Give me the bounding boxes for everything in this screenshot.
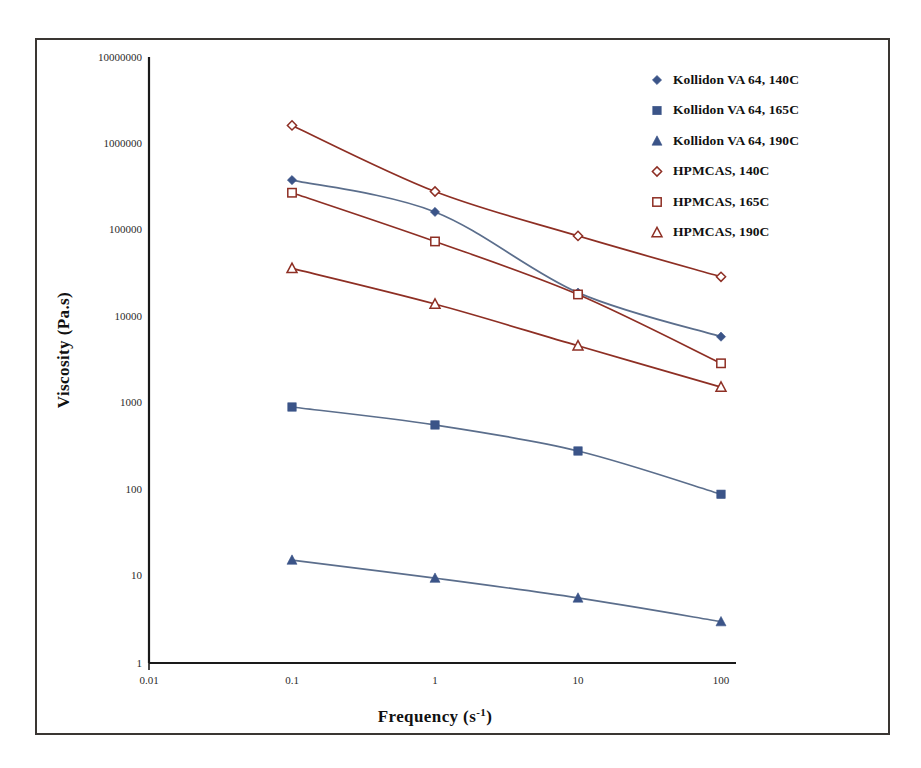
y-tick-label: 10 [131,569,143,581]
data-point-marker [287,121,296,130]
legend-label: HPMCAS, 190C [673,224,769,239]
data-point-marker [574,290,582,298]
y-axis-title: Viscosity (Pa.s) [54,292,73,408]
data-point-marker [574,447,582,455]
data-point-marker [716,272,725,281]
x-axis-title-base: Frequency (s [378,707,476,726]
legend-item: HPMCAS, 165C [653,194,770,209]
data-point-marker [716,332,725,341]
x-tick-label: 100 [713,674,730,686]
legend-item: HPMCAS, 190C [652,224,769,239]
data-point-marker [717,490,725,498]
series-line [292,268,721,387]
y-tick-label: 1000000 [104,137,143,149]
series-1 [288,403,725,499]
data-point-marker [287,555,297,564]
data-point-marker [287,263,297,272]
chart-legend: Kollidon VA 64, 140CKollidon VA 64, 165C… [652,72,799,240]
y-tick-label: 1 [137,657,143,669]
data-point-marker [431,237,439,245]
legend-label: HPMCAS, 165C [673,194,769,209]
x-tick-label: 10 [573,674,585,686]
legend-marker [653,198,661,206]
series-2 [287,555,726,626]
legend-label: Kollidon VA 64, 190C [673,133,799,148]
legend-marker [652,227,662,236]
legend-marker [653,106,661,114]
data-point-marker [717,359,725,367]
x-tick-label: 0.1 [285,674,299,686]
legend-marker [652,75,661,84]
y-tick-labels: 10000000 1000000 100000 10000 1000 100 1… [98,51,143,669]
x-tick-label: 0.01 [139,674,158,686]
y-tick-label: 10000 [115,310,143,322]
data-point-marker [430,207,439,216]
legend-item: Kollidon VA 64, 165C [653,102,799,117]
y-tick-label: 1000 [120,396,143,408]
x-tick-labels: 0.01 0.1 1 10 100 [139,674,729,686]
viscosity-frequency-chart: 10000000 1000000 100000 10000 1000 100 1… [37,40,892,737]
data-point-marker [431,421,439,429]
legend-item: Kollidon VA 64, 190C [652,133,799,148]
legend-marker [652,167,661,176]
legend-item: HPMCAS, 140C [652,163,769,178]
series-line [292,407,721,494]
data-point-marker [430,187,439,196]
legend-marker [652,136,662,145]
data-point-marker [287,175,296,184]
data-point-marker [288,403,296,411]
series-line [292,193,721,364]
legend-label: HPMCAS, 140C [673,163,769,178]
legend-label: Kollidon VA 64, 140C [673,72,799,87]
legend-item: Kollidon VA 64, 140C [652,72,799,87]
data-point-marker [288,189,296,197]
x-axis-title-superscript: -1 [476,706,486,718]
legend-label: Kollidon VA 64, 165C [673,102,799,117]
y-tick-label: 100 [126,483,143,495]
data-series-layer [287,121,726,626]
data-point-marker [573,231,582,240]
x-axis-title: Frequency (s-1) [378,706,492,726]
series-line [292,560,721,622]
series-5 [287,263,726,391]
figure-frame: 10000000 1000000 100000 10000 1000 100 1… [35,38,890,735]
x-tick-label: 1 [432,674,438,686]
y-tick-label: 10000000 [98,51,143,63]
axes-group [149,57,736,670]
x-axis-title-tail: ) [486,707,492,726]
y-tick-label: 100000 [109,223,143,235]
